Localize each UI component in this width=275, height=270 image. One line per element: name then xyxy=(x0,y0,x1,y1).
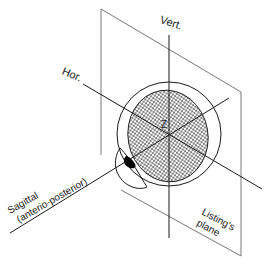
horizontal-axis-label: Hor. xyxy=(60,65,83,84)
vertical-axis-label: Vert. xyxy=(159,13,184,31)
listings-plane-diagram: Vert. Hor. Z Sagittal (anterio-posterior… xyxy=(0,0,275,270)
center-label: Z xyxy=(161,119,167,130)
